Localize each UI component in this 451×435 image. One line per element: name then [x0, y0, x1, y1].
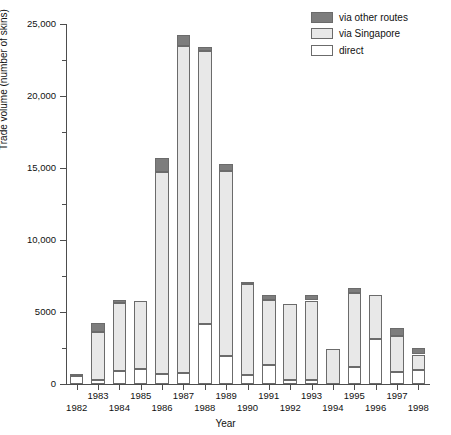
segment-direct: [390, 372, 404, 384]
bar-1993: [305, 295, 319, 384]
segment-via-other-routes: [348, 288, 362, 292]
segment-via-other-routes: [177, 35, 191, 47]
segment-via-singapore: [70, 374, 84, 376]
legend-swatch-direct: [311, 45, 333, 56]
x-tick-label-1995: 1995: [339, 391, 369, 401]
bar-1995: [348, 288, 362, 384]
bar-1984: [113, 300, 127, 384]
x-tick-label-1997: 1997: [382, 391, 412, 401]
bar-1985: [134, 300, 148, 384]
segment-direct: [348, 367, 362, 384]
x-tick-label-1987: 1987: [168, 391, 198, 401]
plot-area: [66, 24, 429, 384]
legend-item-via-singapore: via Singapore: [311, 27, 408, 41]
x-tick-label-1994: 1994: [318, 403, 348, 413]
x-tick-label-1996: 1996: [361, 403, 391, 413]
bar-1989: [219, 164, 233, 384]
legend-label-direct: direct: [339, 45, 363, 56]
segment-via-singapore: [219, 171, 233, 356]
y-tick-major: [60, 384, 66, 385]
segment-via-other-routes: [390, 328, 404, 337]
bar-1998: [412, 348, 426, 384]
x-tick-label-1991: 1991: [254, 391, 284, 401]
legend-item-direct: direct: [311, 43, 408, 57]
segment-via-singapore: [155, 172, 169, 374]
bar-1987: [177, 35, 191, 384]
bar-1982: [70, 374, 84, 384]
segment-direct: [91, 380, 105, 384]
x-tick-label-1992: 1992: [275, 403, 305, 413]
segment-via-other-routes: [262, 295, 276, 300]
segment-via-other-routes: [412, 348, 426, 354]
legend-label-via-other-routes: via other routes: [339, 12, 408, 23]
segment-direct: [113, 371, 127, 384]
bar-series-group: [66, 24, 429, 384]
bar-1996: [369, 295, 383, 384]
segment-direct: [305, 380, 319, 384]
segment-via-singapore: [326, 349, 340, 384]
x-tick: [376, 385, 377, 390]
trade-volume-stacked-bar-chart: Trade volume (number of skins) 0500010,0…: [0, 0, 451, 435]
x-tick-label-1998: 1998: [403, 403, 433, 413]
x-tick: [418, 385, 419, 390]
x-tick: [205, 385, 206, 390]
y-tick-label: 15,000: [0, 163, 56, 173]
x-tick: [119, 385, 120, 390]
segment-via-singapore: [113, 303, 127, 371]
x-tick: [248, 385, 249, 390]
x-tick-label-1982: 1982: [62, 403, 92, 413]
bar-1997: [390, 328, 404, 384]
segment-via-other-routes: [113, 300, 127, 304]
segment-via-singapore: [177, 46, 191, 373]
x-tick: [333, 385, 334, 390]
x-tick-label-1988: 1988: [190, 403, 220, 413]
segment-via-other-routes: [91, 323, 105, 332]
segment-via-singapore: [412, 355, 426, 370]
segment-direct: [241, 375, 255, 384]
x-tick: [290, 385, 291, 390]
bar-1986: [155, 158, 169, 384]
x-tick-label-1986: 1986: [147, 403, 177, 413]
segment-via-singapore: [134, 301, 148, 369]
bar-1992: [283, 304, 297, 384]
segment-direct: [369, 339, 383, 384]
x-tick-label-1985: 1985: [126, 391, 156, 401]
segment-via-singapore: [91, 332, 105, 380]
segment-direct: [177, 373, 191, 384]
y-tick-label: 0: [0, 379, 56, 389]
segment-via-other-routes: [155, 158, 169, 172]
legend-swatch-via-singapore: [311, 28, 333, 39]
x-tick-label-1983: 1983: [83, 391, 113, 401]
segment-direct: [283, 380, 297, 384]
segment-via-singapore: [283, 304, 297, 380]
segment-via-other-routes: [305, 295, 319, 300]
segment-direct: [198, 324, 212, 384]
segment-direct: [219, 356, 233, 384]
segment-direct: [155, 374, 169, 384]
x-tick-label-1984: 1984: [104, 403, 134, 413]
segment-via-other-routes: [219, 164, 233, 171]
segment-via-singapore: [198, 51, 212, 323]
segment-via-singapore: [348, 293, 362, 367]
bar-1991: [262, 295, 276, 384]
legend-label-via-singapore: via Singapore: [339, 28, 400, 39]
bar-1990: [241, 282, 255, 384]
y-tick-label: 25,000: [0, 19, 56, 29]
x-tick: [77, 385, 78, 390]
y-tick-label: 5000: [0, 307, 56, 317]
bar-1983: [91, 323, 105, 384]
legend-swatch-via-other-routes: [311, 12, 333, 23]
segment-via-other-routes: [198, 47, 212, 51]
x-tick: [162, 385, 163, 390]
segment-direct: [412, 370, 426, 384]
bar-1994: [326, 349, 340, 384]
segment-via-singapore: [390, 336, 404, 372]
segment-via-singapore: [262, 300, 276, 364]
segment-via-singapore: [241, 284, 255, 375]
segment-via-singapore: [305, 301, 319, 381]
x-axis-title: Year: [0, 418, 451, 429]
segment-direct: [70, 376, 84, 384]
segment-via-other-routes: [241, 282, 255, 284]
segment-direct: [134, 369, 148, 384]
x-tick-label-1989: 1989: [211, 391, 241, 401]
